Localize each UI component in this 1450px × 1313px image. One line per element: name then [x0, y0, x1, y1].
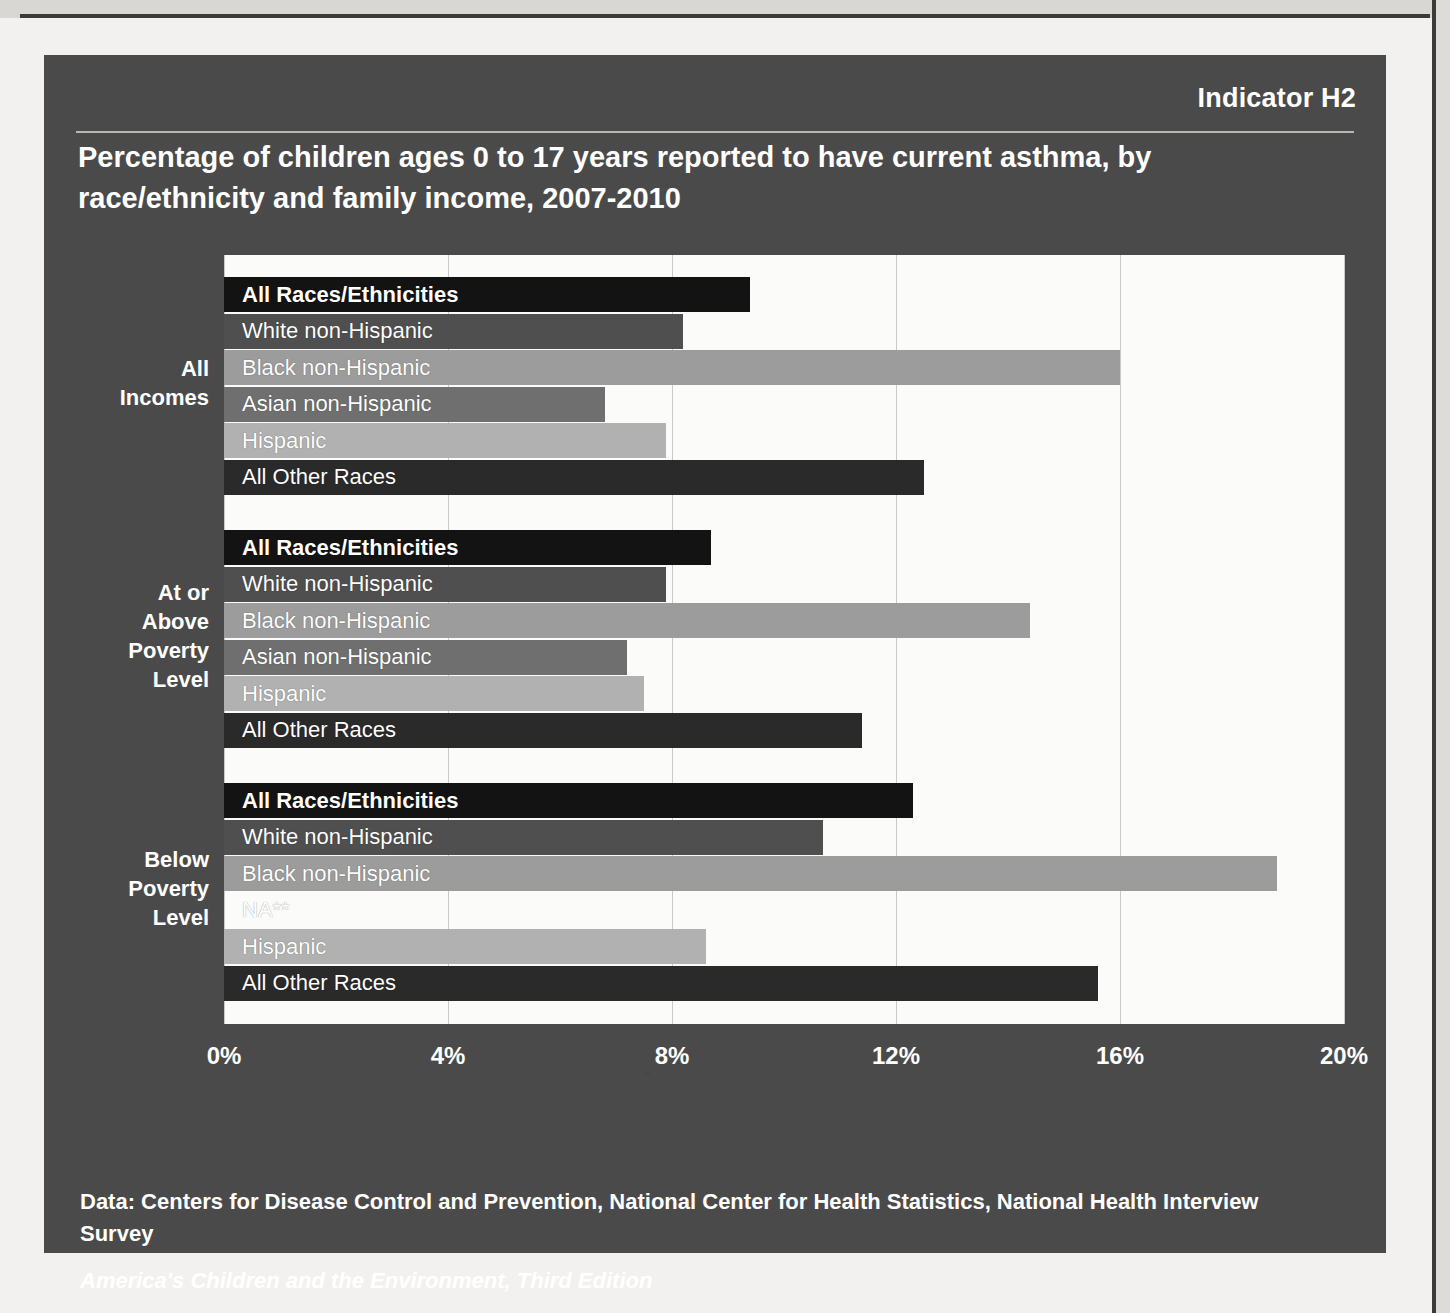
gridline-20	[1344, 255, 1345, 1024]
bar-1-4: Hispanic	[224, 676, 644, 711]
group-label-line: Level	[49, 665, 209, 694]
plot-area: All Races/EthnicitiesWhite non-HispanicB…	[224, 255, 1344, 1024]
bar-2-2: Black non-Hispanic	[224, 856, 1277, 891]
bar-label: Asian non-Hispanic	[224, 644, 432, 670]
page-right-rule	[1432, 0, 1436, 1313]
bar-0-0: All Races/Ethnicities	[224, 277, 750, 312]
data-source-note: Data: Centers for Disease Control and Pr…	[80, 1186, 1330, 1250]
indicator-label: Indicator H2	[1198, 83, 1356, 114]
bar-2-4: Hispanic	[224, 929, 706, 964]
bar-label: Black non-Hispanic	[224, 861, 430, 887]
bar-1-1: White non-Hispanic	[224, 567, 666, 602]
bar-2-0: All Races/Ethnicities	[224, 783, 913, 818]
bar-0-5: All Other Races	[224, 460, 924, 495]
group-label-line: Poverty	[49, 874, 209, 903]
bar-label: Black non-Hispanic	[224, 608, 430, 634]
publication-note: America's Children and the Environment, …	[80, 1268, 652, 1294]
group-label-1: At orAbovePovertyLevel	[49, 578, 209, 694]
bar-label: All Races/Ethnicities	[224, 535, 458, 561]
bar-label: All Races/Ethnicities	[224, 282, 458, 308]
bar-label: All Races/Ethnicities	[224, 788, 458, 814]
chart-title: Percentage of children ages 0 to 17 year…	[78, 137, 1338, 219]
bar-label: Black non-Hispanic	[224, 355, 430, 381]
x-tick-12: 12%	[872, 1042, 920, 1070]
figure-panel: Indicator H2 Percentage of children ages…	[44, 55, 1386, 1253]
bar-1-3: Asian non-Hispanic	[224, 640, 627, 675]
bar-2-5: All Other Races	[224, 966, 1098, 1001]
bar-2-1: White non-Hispanic	[224, 820, 823, 855]
bar-1-2: Black non-Hispanic	[224, 603, 1030, 638]
bar-label: NA**	[224, 897, 290, 923]
bar-0-2: Black non-Hispanic	[224, 350, 1120, 385]
bar-label: Hispanic	[224, 428, 326, 454]
bar-0-4: Hispanic	[224, 423, 666, 458]
gridline-16	[1120, 255, 1121, 1024]
group-label-0: AllIncomes	[49, 354, 209, 412]
group-label-line: Incomes	[49, 383, 209, 412]
bar-label: All Other Races	[224, 970, 396, 996]
group-label-line: Level	[49, 903, 209, 932]
group-label-line: All	[49, 354, 209, 383]
bar-label: All Other Races	[224, 717, 396, 743]
x-tick-0: 0%	[207, 1042, 242, 1070]
page-edge-right	[1434, 0, 1450, 1313]
x-tick-20: 20%	[1320, 1042, 1368, 1070]
bar-label: White non-Hispanic	[224, 571, 433, 597]
bar-0-1: White non-Hispanic	[224, 314, 683, 349]
group-label-line: At or	[49, 578, 209, 607]
x-tick-16: 16%	[1096, 1042, 1144, 1070]
scanned-page: Indicator H2 Percentage of children ages…	[0, 0, 1450, 1313]
group-label-2: BelowPovertyLevel	[49, 845, 209, 932]
bar-0-3: Asian non-Hispanic	[224, 387, 605, 422]
bar-label: All Other Races	[224, 464, 396, 490]
group-label-line: Poverty	[49, 636, 209, 665]
group-label-line: Above	[49, 607, 209, 636]
page-top-rule	[20, 14, 1430, 18]
x-tick-4: 4%	[431, 1042, 466, 1070]
bar-label: Asian non-Hispanic	[224, 391, 432, 417]
group-label-line: Below	[49, 845, 209, 874]
header-divider	[76, 131, 1354, 133]
bar-1-5: All Other Races	[224, 713, 862, 748]
bar-label: White non-Hispanic	[224, 318, 433, 344]
x-tick-8: 8%	[655, 1042, 690, 1070]
bar-label: White non-Hispanic	[224, 824, 433, 850]
bar-label: Hispanic	[224, 934, 326, 960]
bar-1-0: All Races/Ethnicities	[224, 530, 711, 565]
bar-label: Hispanic	[224, 681, 326, 707]
